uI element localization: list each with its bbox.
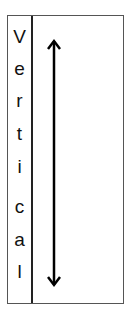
label-letter: l (8, 261, 31, 283)
label-letter: a (8, 229, 31, 251)
label-letter: c (8, 196, 31, 218)
label-letter: e (8, 58, 31, 80)
label-letter: i (8, 156, 31, 178)
label-letter: r (8, 90, 31, 112)
diagram-frame: V e r t i c a l (7, 15, 124, 304)
label-letter: t (8, 123, 31, 145)
vertical-label-column: V e r t i c a l (8, 16, 33, 303)
label-letter: V (8, 26, 31, 48)
double-headed-vertical-arrow-icon (46, 38, 62, 288)
